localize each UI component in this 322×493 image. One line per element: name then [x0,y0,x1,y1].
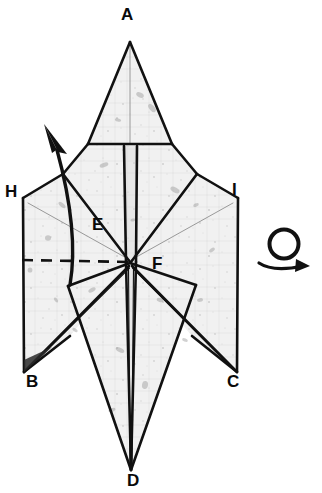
vertex-label-f: F [152,255,162,272]
vertex-label-e: E [92,216,103,233]
vertex-label-h: H [5,183,17,200]
vertex-label-c: C [227,373,239,390]
origami-figure [0,0,322,493]
vertex-label-b: B [26,373,38,390]
vertex-label-d: D [127,472,139,489]
origami-diagram-canvas: A H I E F B C D [0,0,322,493]
turn-over-loop-arrow [259,230,310,273]
vertex-label-i: I [232,181,237,198]
vertex-label-a: A [121,6,133,23]
